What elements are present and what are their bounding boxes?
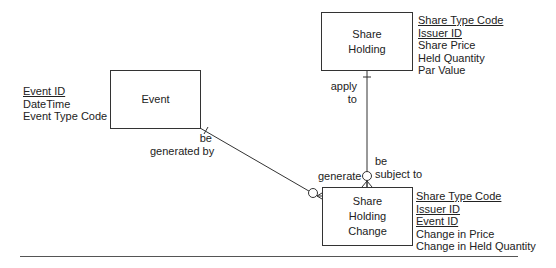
attribute-par-value: Par Value <box>418 64 503 77</box>
attribute-share-type-code: Share Type Code <box>418 14 503 27</box>
entity-share-holding[interactable]: Share Holding <box>321 12 413 71</box>
label-generate: generate <box>318 170 361 183</box>
label-line: generated by <box>150 145 212 158</box>
entity-change-name-line3: Change <box>348 224 387 239</box>
label-line: be <box>375 155 422 168</box>
label-line: subject to <box>375 168 422 181</box>
entity-share-holding-change-attributes: Share Type Code Issuer ID Event ID Chang… <box>416 190 536 253</box>
entity-share-holding-change[interactable]: Share Holding Change <box>322 187 413 246</box>
attribute-change-in-held-quantity: Change in Held Quantity <box>416 240 536 253</box>
attribute-datetime: DateTime <box>23 98 107 111</box>
attribute-event-id: Event ID <box>23 85 107 98</box>
horizontal-divider <box>20 256 518 257</box>
label-line: be <box>150 132 212 145</box>
entity-change-name-line1: Share <box>353 194 382 209</box>
entity-event-attributes: Event ID DateTime Event Type Code <box>23 85 107 123</box>
attribute-issuer-id: Issuer ID <box>416 203 536 216</box>
label-line: apply <box>330 80 357 93</box>
label-apply-to: apply to <box>330 80 357 105</box>
attribute-change-in-price: Change in Price <box>416 228 536 241</box>
entity-event[interactable]: Event <box>110 70 201 129</box>
attribute-share-type-code: Share Type Code <box>416 190 536 203</box>
entity-share-holding-attributes: Share Type Code Issuer ID Share Price He… <box>418 14 503 77</box>
entity-event-name: Event <box>141 92 169 107</box>
attribute-held-quantity: Held Quantity <box>418 52 503 65</box>
relationship-event-generates-change <box>200 127 322 199</box>
label-be-subject-to: be subject to <box>375 155 422 180</box>
label-line: to <box>330 93 357 106</box>
entity-share-holding-name-line2: Holding <box>348 42 385 57</box>
entity-share-holding-name-line1: Share <box>352 27 381 42</box>
entity-change-name-line2: Holding <box>349 209 386 224</box>
attribute-issuer-id: Issuer ID <box>418 27 503 40</box>
attribute-event-type-code: Event Type Code <box>23 110 107 123</box>
relationship-holding-subject-to-change <box>362 70 372 187</box>
attribute-share-price: Share Price <box>418 39 503 52</box>
label-be-generated-by: be generated by <box>150 132 212 157</box>
attribute-event-id: Event ID <box>416 215 536 228</box>
